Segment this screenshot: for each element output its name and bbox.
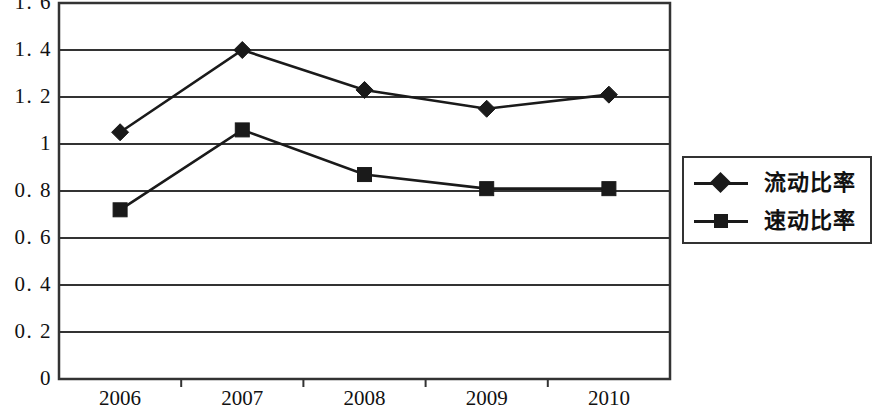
x-axis-tick-labels: 20062007200820092010 — [59, 384, 670, 412]
legend-item-quick-ratio: 速动比率 — [694, 204, 856, 238]
square-marker-icon — [694, 211, 748, 231]
data-point-diamond — [112, 124, 129, 141]
data-point-square — [480, 182, 494, 196]
x-axis-tick-label: 2009 — [466, 386, 508, 410]
data-point-square — [235, 123, 249, 137]
x-axis-tick-label: 2010 — [588, 386, 630, 410]
data-point-square — [602, 182, 616, 196]
x-axis-tick-label: 2007 — [221, 386, 263, 410]
legend-label: 流动比率 — [764, 171, 856, 195]
data-point-diamond — [478, 100, 495, 117]
data-point-diamond — [234, 42, 251, 59]
x-axis-tick-label: 2006 — [99, 386, 141, 410]
legend-label: 速动比率 — [764, 209, 856, 233]
data-point-diamond — [600, 86, 617, 103]
legend-item-current-ratio: 流动比率 — [694, 166, 856, 200]
data-point-square — [358, 168, 372, 182]
x-axis-tick-label: 2008 — [344, 386, 386, 410]
data-point-diamond — [356, 81, 373, 98]
data-point-square — [113, 203, 127, 217]
chart-legend: 流动比率 速动比率 — [682, 156, 872, 244]
diamond-marker-icon — [694, 173, 748, 193]
